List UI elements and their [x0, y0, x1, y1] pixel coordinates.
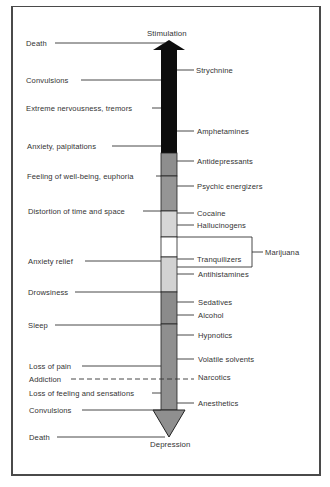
drug-label: Antidepressants — [197, 157, 253, 166]
segment-sedatives — [161, 292, 177, 324]
depression-label: Depression — [150, 440, 190, 449]
drug-label: Narcotics — [198, 373, 231, 382]
effect-label: Extreme nervousness, tremors — [26, 104, 132, 113]
effect-label: Loss of feeling and sensations — [29, 389, 134, 398]
effect-label: Feeling of well-being, euphoria — [27, 172, 134, 181]
effect-label: Anxiety, palpitations — [27, 142, 96, 151]
effect-label: Anxiety relief — [28, 257, 73, 266]
segment-psychic-energizers — [161, 176, 177, 211]
drug-label: Amphetamines — [197, 127, 249, 136]
effect-label: Death — [26, 39, 47, 48]
drug-label: Tranquilizers — [197, 255, 242, 264]
drug-label: Anesthetics — [198, 399, 238, 408]
segment-tranquilizers — [161, 257, 177, 292]
effect-label: Convulsions — [26, 76, 68, 85]
effect-label: Distortion of time and space — [28, 207, 125, 216]
segment-depressants — [161, 324, 177, 410]
marijuana-label: Marijuana — [265, 248, 299, 257]
drug-label: Alcohol — [198, 311, 224, 320]
stimulation-label: Stimulation — [147, 29, 187, 38]
drug-label: Strychnine — [196, 66, 233, 75]
drug-label: Hypnotics — [198, 331, 232, 340]
drug-label: Sedatives — [198, 298, 232, 307]
effect-label: Convulsions — [29, 406, 71, 415]
top-arrowhead-icon — [153, 40, 185, 50]
bottom-arrowhead-icon — [153, 410, 185, 437]
segment-stimulant-black — [161, 50, 177, 153]
effect-label: Addiction — [29, 375, 61, 384]
drug-label: Psychic energizers — [197, 182, 263, 191]
effect-label: Loss of pain — [29, 362, 71, 371]
scale-bar — [153, 40, 185, 437]
drug-label: Antihistamines — [198, 270, 249, 279]
segment-cocaine-hallucinogens — [161, 211, 177, 237]
segment-marijuana-neutral — [161, 237, 177, 257]
drug-label: Cocaine — [197, 209, 226, 218]
effect-label: Drowsiness — [28, 288, 68, 297]
effect-label: Sleep — [28, 321, 48, 330]
segment-antidepressants — [161, 153, 177, 176]
effect-label: Death — [29, 433, 50, 442]
drug-label: Hallucinogens — [197, 221, 246, 230]
drug-leader-lines — [177, 70, 194, 403]
drug-label: Volatile solvents — [198, 355, 254, 364]
